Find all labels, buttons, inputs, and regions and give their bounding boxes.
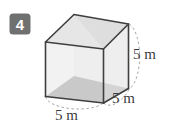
badge-number: 4 (16, 16, 25, 33)
figure-container: 4 (0, 0, 171, 136)
label-height: 5 m (133, 46, 156, 62)
cube-diagram: 4 (0, 0, 171, 136)
label-width: 5 m (112, 90, 135, 106)
label-length: 5 m (55, 107, 78, 123)
problem-number-badge: 4 (10, 14, 31, 35)
